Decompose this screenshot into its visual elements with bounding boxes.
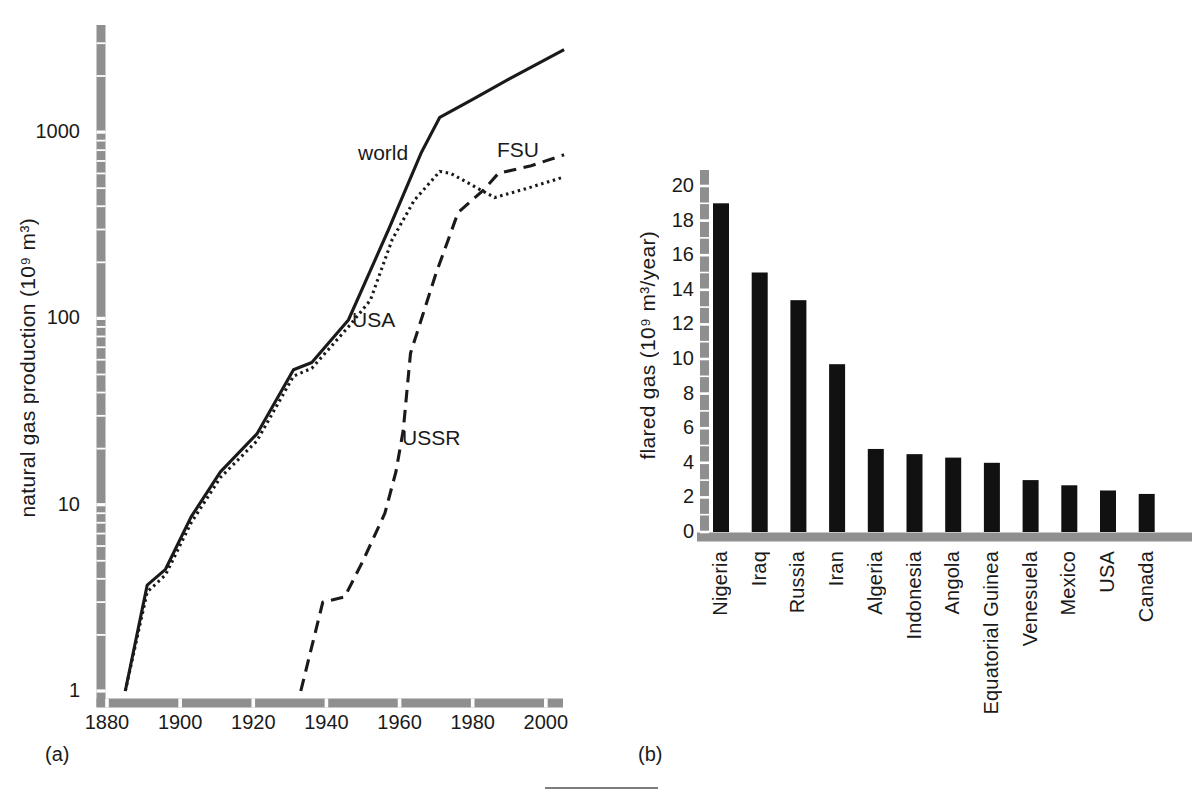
y-minor-tick-a bbox=[97, 392, 106, 394]
x-tick-gap-a bbox=[251, 699, 255, 708]
figure-canvas bbox=[0, 0, 1203, 808]
y-minor-tick-a bbox=[97, 512, 106, 514]
x-tick-label-a: 1900 bbox=[152, 711, 208, 734]
y-axis-title-production: natural gas production (10⁹ m³) bbox=[16, 218, 40, 518]
y-major-tick-a bbox=[97, 317, 106, 320]
y-minor-tick-b bbox=[700, 341, 709, 343]
y-minor-tick-a bbox=[97, 187, 106, 189]
y-minor-tick-a bbox=[97, 560, 106, 562]
y-minor-tick-b bbox=[700, 306, 709, 308]
series-label-world: world bbox=[358, 141, 408, 165]
x-tick-gap-a bbox=[471, 699, 475, 708]
y-tick-label-b: 14 bbox=[652, 278, 694, 301]
y-tick-label-b: 16 bbox=[652, 243, 694, 266]
y-major-tick-a bbox=[97, 131, 106, 134]
y-minor-tick-a bbox=[97, 229, 106, 231]
category-label-nigeria: Nigeria bbox=[709, 551, 732, 616]
x-axis-band-b bbox=[697, 533, 1192, 542]
x-tick-label-a: 1940 bbox=[298, 711, 354, 734]
y-minor-tick-a bbox=[97, 173, 106, 175]
y-minor-tick-b bbox=[700, 203, 709, 205]
y-minor-tick-a bbox=[97, 205, 106, 207]
bar-russia bbox=[790, 300, 806, 532]
y-major-tick-b bbox=[700, 427, 709, 430]
x-tick-gap-a bbox=[325, 699, 329, 708]
y-tick-label-b: 0 bbox=[652, 520, 694, 543]
y-minor-tick-a bbox=[97, 326, 106, 328]
category-label-mexico: Mexico bbox=[1057, 551, 1080, 616]
series-label-fsu: FSU bbox=[497, 138, 539, 162]
y-minor-tick-b bbox=[700, 410, 709, 412]
bar-usa bbox=[1100, 490, 1116, 532]
y-major-tick-b bbox=[700, 219, 709, 222]
x-tick-gap-a bbox=[398, 699, 402, 708]
bar-venesuela bbox=[1023, 480, 1039, 532]
y-minor-tick-b bbox=[700, 514, 709, 516]
y-minor-tick-a bbox=[97, 42, 106, 44]
y-axis-band-a bbox=[97, 25, 106, 707]
x-axis-band-a bbox=[97, 699, 564, 708]
y-minor-tick-a bbox=[97, 578, 106, 580]
series-label-usa: USA bbox=[352, 308, 395, 332]
x-tick-gap-a bbox=[544, 699, 548, 708]
y-tick-label-a: 1 bbox=[26, 679, 80, 702]
y-tick-label-b: 2 bbox=[652, 485, 694, 508]
caption-rule bbox=[545, 787, 658, 789]
y-minor-tick-a bbox=[97, 601, 106, 603]
y-major-tick-b bbox=[700, 323, 709, 326]
y-tick-label-b: 12 bbox=[652, 312, 694, 335]
category-label-russia: Russia bbox=[786, 551, 809, 613]
y-major-tick-b bbox=[700, 392, 709, 395]
x-tick-gap-a bbox=[105, 699, 109, 708]
bar-indonesia bbox=[907, 454, 923, 532]
y-major-tick-a bbox=[97, 503, 106, 506]
y-minor-tick-a bbox=[97, 160, 106, 162]
category-label-indonesia: Indonesia bbox=[903, 551, 926, 640]
y-minor-tick-a bbox=[97, 149, 106, 151]
x-tick-label-a: 1960 bbox=[372, 711, 428, 734]
bar-equatorial-guinea bbox=[984, 463, 1000, 532]
bar-mexico bbox=[1061, 485, 1077, 532]
category-label-usa: USA bbox=[1096, 551, 1119, 593]
x-tick-gap-a bbox=[178, 699, 182, 708]
y-minor-tick-b bbox=[700, 237, 709, 239]
y-major-tick-b bbox=[700, 185, 709, 188]
y-minor-tick-b bbox=[700, 479, 709, 481]
category-label-iraq: Iraq bbox=[748, 551, 771, 586]
x-tick-label-a: 1920 bbox=[225, 711, 281, 734]
y-tick-label-b: 8 bbox=[652, 382, 694, 405]
y-major-tick-a bbox=[97, 689, 106, 692]
figure-natural-gas: natural gas production (10⁹ m³) world FS… bbox=[0, 0, 1203, 808]
y-major-tick-b bbox=[700, 289, 709, 292]
y-minor-tick-b bbox=[700, 376, 709, 378]
series-USA-line bbox=[125, 171, 564, 691]
y-minor-tick-a bbox=[97, 415, 106, 417]
y-major-tick-b bbox=[700, 496, 709, 499]
y-tick-label-a: 10 bbox=[26, 493, 80, 516]
x-tick-label-a: 1880 bbox=[79, 711, 135, 734]
series-USSR-FSU-line bbox=[301, 155, 564, 691]
category-label-canada: Canada bbox=[1135, 551, 1158, 622]
bar-angola bbox=[945, 458, 961, 532]
y-major-tick-b bbox=[700, 254, 709, 257]
y-minor-tick-a bbox=[97, 336, 106, 338]
bar-iraq bbox=[752, 273, 768, 533]
category-label-algeria: Algeria bbox=[864, 551, 887, 615]
panel-b-letter: (b) bbox=[638, 743, 662, 766]
y-minor-tick-a bbox=[97, 522, 106, 524]
y-minor-tick-a bbox=[97, 448, 106, 450]
x-tick-label-a: 2000 bbox=[518, 711, 574, 734]
y-tick-label-a: 100 bbox=[26, 306, 80, 329]
category-label-iran: Iran bbox=[825, 551, 848, 586]
y-minor-tick-a bbox=[97, 545, 106, 547]
y-minor-tick-a bbox=[97, 75, 106, 77]
y-minor-tick-a bbox=[97, 533, 106, 535]
y-major-tick-b bbox=[700, 462, 709, 465]
y-tick-label-a: 1000 bbox=[26, 120, 80, 143]
y-minor-tick-b bbox=[700, 272, 709, 274]
panel-a-letter: (a) bbox=[45, 743, 69, 766]
y-minor-tick-a bbox=[97, 140, 106, 142]
y-minor-tick-a bbox=[97, 374, 106, 376]
y-axis-band-b bbox=[700, 170, 709, 541]
y-tick-label-b: 4 bbox=[652, 451, 694, 474]
